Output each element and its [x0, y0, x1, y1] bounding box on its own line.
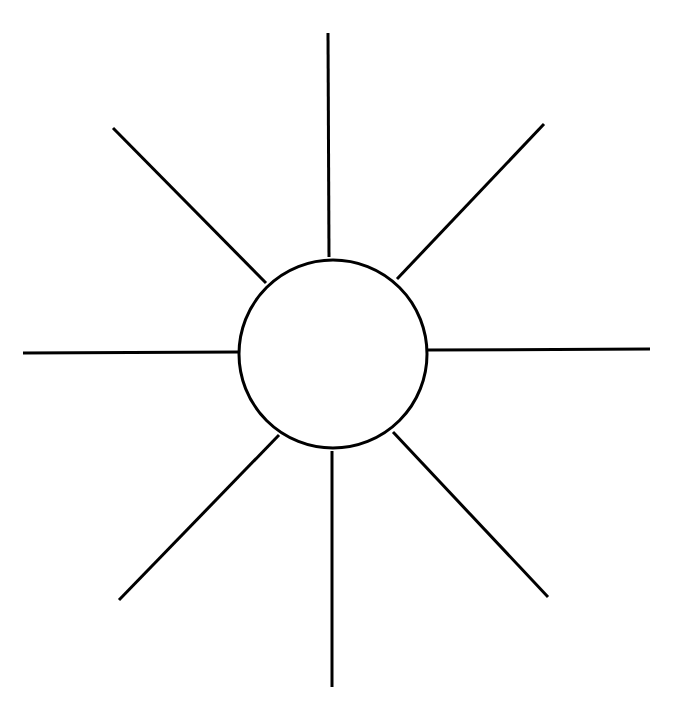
spoke-top — [328, 33, 329, 257]
center-circle — [239, 260, 427, 448]
spoke-bottom-left — [119, 435, 279, 600]
spoke-bottom-right — [393, 432, 548, 597]
web-diagram — [0, 0, 679, 722]
spoke-right — [427, 349, 650, 350]
spoke-left — [23, 352, 239, 353]
spoke-top-right — [397, 124, 544, 279]
spoke-top-left — [113, 128, 266, 283]
